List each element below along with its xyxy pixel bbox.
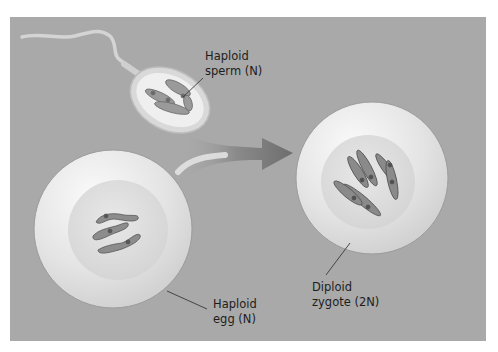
sperm-label-line2: sperm (N) (205, 64, 262, 79)
zygote-label-line2: zygote (2N) (312, 295, 379, 310)
zygote-label-line1: Diploid (312, 280, 379, 295)
sperm-label-line1: Haploid (205, 49, 262, 64)
arrow-right-icon (178, 130, 293, 178)
egg-cell-icon (34, 150, 192, 308)
egg-label-line1: Haploid (213, 297, 257, 312)
sperm-label: Haploid sperm (N) (205, 49, 262, 79)
zygote-label: Diploid zygote (2N) (312, 280, 379, 310)
egg-leader-line (167, 291, 207, 309)
sperm-tail (22, 31, 143, 77)
zygote-leader-line (326, 243, 350, 275)
zygote-cell-icon (296, 102, 448, 254)
egg-label-line2: egg (N) (213, 312, 257, 327)
egg-label: Haploid egg (N) (213, 297, 257, 327)
